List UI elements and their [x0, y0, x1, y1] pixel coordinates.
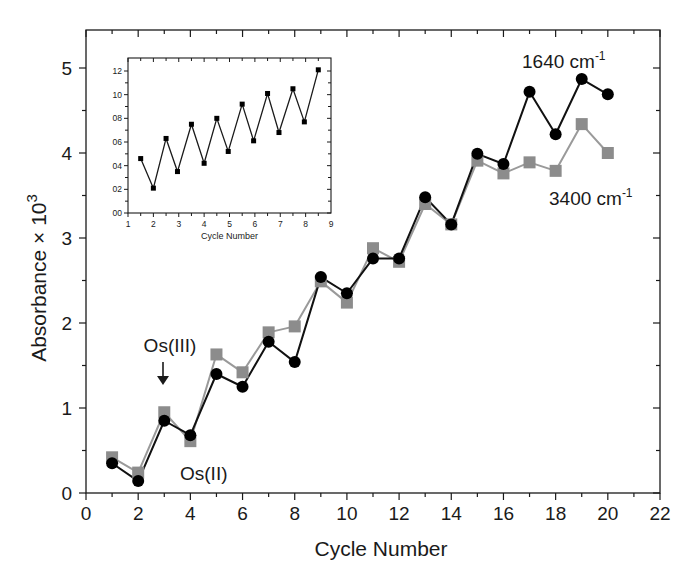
data-point-3400	[210, 348, 222, 360]
x-tick-label: 20	[597, 503, 618, 524]
data-point-1640	[471, 148, 483, 160]
x-tick-label: 14	[441, 503, 463, 524]
data-point-1640	[576, 73, 588, 85]
inset-y-tick-label: 06	[113, 137, 123, 147]
annotation-os-iii: Os(III)	[144, 335, 197, 356]
series-label-1640: 1640 cm-1	[522, 49, 606, 72]
y-tick-label: 0	[61, 483, 72, 504]
inset-data-point	[302, 119, 307, 124]
inset-x-tick-label: 9	[329, 219, 334, 229]
inset-y-tick-label: 10	[113, 90, 123, 100]
x-tick-label: 2	[133, 503, 144, 524]
inset-data-point	[276, 130, 281, 135]
inset-data-point	[175, 169, 180, 174]
x-tick-label: 4	[185, 503, 196, 524]
data-point-1640	[497, 158, 509, 170]
data-point-1640	[341, 287, 353, 299]
inset-y-tick-label: 00	[113, 208, 123, 218]
inset-plot: 12345678900020406081012Cycle Number	[113, 58, 334, 241]
inset-x-tick-label: 7	[278, 219, 283, 229]
x-tick-label: 22	[649, 503, 670, 524]
inset-data-point	[164, 136, 169, 141]
y-tick-label: 4	[61, 143, 72, 164]
data-point-1640	[289, 356, 301, 368]
y-axis-label: Absorbance × 103	[23, 194, 50, 362]
data-point-1640	[263, 336, 275, 348]
series-label-superscript: -1	[595, 49, 606, 63]
data-point-3400	[289, 320, 301, 332]
data-point-1640	[419, 191, 431, 203]
inset-data-point	[240, 102, 245, 107]
x-tick-label: 0	[81, 503, 92, 524]
data-point-3400	[550, 165, 562, 177]
x-tick-label: 8	[289, 503, 300, 524]
y-axis-label-main: Absorbance × 10	[27, 202, 50, 361]
data-point-1640	[445, 218, 457, 230]
y-tick-label: 2	[61, 313, 72, 334]
inset-x-tick-label: 3	[176, 219, 181, 229]
inset-data-point	[290, 86, 295, 91]
x-tick-label: 12	[389, 503, 410, 524]
inset-x-tick-label: 4	[202, 219, 207, 229]
inset-x-tick-label: 8	[303, 219, 308, 229]
inset-y-tick-label: 08	[113, 113, 123, 123]
data-point-1640	[132, 475, 144, 487]
data-point-1640	[367, 252, 379, 264]
inset-x-tick-label: 6	[253, 219, 258, 229]
data-point-1640	[550, 128, 562, 140]
y-tick-label: 1	[61, 398, 72, 419]
data-point-1640	[158, 415, 170, 427]
data-point-1640	[602, 88, 614, 100]
data-point-1640	[210, 368, 222, 380]
inset-data-point	[202, 161, 207, 166]
annotation-os-ii: Os(II)	[180, 463, 228, 484]
series-label-3400: 3400 cm-1	[549, 186, 633, 209]
arrow-down-icon	[157, 376, 169, 385]
inset-data-point	[265, 91, 270, 96]
inset-data-point	[151, 186, 156, 191]
x-tick-label: 10	[336, 503, 357, 524]
data-point-1640	[184, 429, 196, 441]
data-point-1640	[237, 381, 249, 393]
main-plot: 0246810121416182022012345Cycle NumberAbs…	[23, 30, 671, 560]
inset-data-point	[226, 149, 231, 154]
inset-x-tick-label: 5	[227, 219, 232, 229]
data-point-3400	[576, 118, 588, 130]
inset-data-point	[316, 67, 321, 72]
y-axis-label-superscript: 3	[23, 194, 40, 202]
inset-data-point	[138, 156, 143, 161]
inset-data-point	[251, 138, 256, 143]
data-point-3400	[524, 156, 536, 168]
x-tick-label: 16	[493, 503, 514, 524]
data-point-3400	[237, 366, 249, 378]
x-axis-label: Cycle Number	[314, 537, 447, 560]
chart-figure: 0246810121416182022012345Cycle NumberAbs…	[0, 0, 691, 576]
x-tick-label: 6	[237, 503, 248, 524]
inset-y-tick-label: 04	[113, 161, 123, 171]
inset-x-tick-label: 1	[126, 219, 131, 229]
inset-data-point	[189, 122, 194, 127]
series-label-text: 3400 cm	[549, 188, 622, 209]
y-tick-label: 3	[61, 228, 72, 249]
inset-frame	[128, 58, 331, 213]
data-point-1640	[393, 252, 405, 264]
data-point-1640	[315, 271, 327, 283]
data-point-1640	[106, 457, 118, 469]
inset-x-axis-label: Cycle Number	[201, 231, 258, 241]
inset-x-tick-label: 2	[151, 219, 156, 229]
data-point-3400	[602, 147, 614, 159]
inset-data-point	[214, 116, 219, 121]
chart-canvas: 0246810121416182022012345Cycle NumberAbs…	[0, 0, 691, 576]
data-point-1640	[524, 86, 536, 98]
x-tick-label: 18	[545, 503, 566, 524]
inset-y-tick-label: 02	[113, 184, 123, 194]
inset-y-tick-label: 12	[113, 66, 123, 76]
y-tick-label: 5	[61, 58, 72, 79]
series-label-text: 1640 cm	[522, 51, 595, 72]
series-label-superscript: -1	[622, 186, 633, 200]
